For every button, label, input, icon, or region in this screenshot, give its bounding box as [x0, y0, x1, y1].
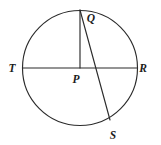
- label-point-q: Q: [87, 12, 95, 24]
- label-point-r: R: [138, 62, 147, 74]
- label-point-p: P: [72, 73, 80, 85]
- geometry-diagram: Q T R P S: [0, 0, 161, 145]
- label-point-t: T: [8, 62, 16, 74]
- segment-chord-QS: [80, 10, 110, 120]
- geometry-canvas: Q T R P S: [0, 0, 161, 145]
- label-point-s: S: [110, 129, 116, 141]
